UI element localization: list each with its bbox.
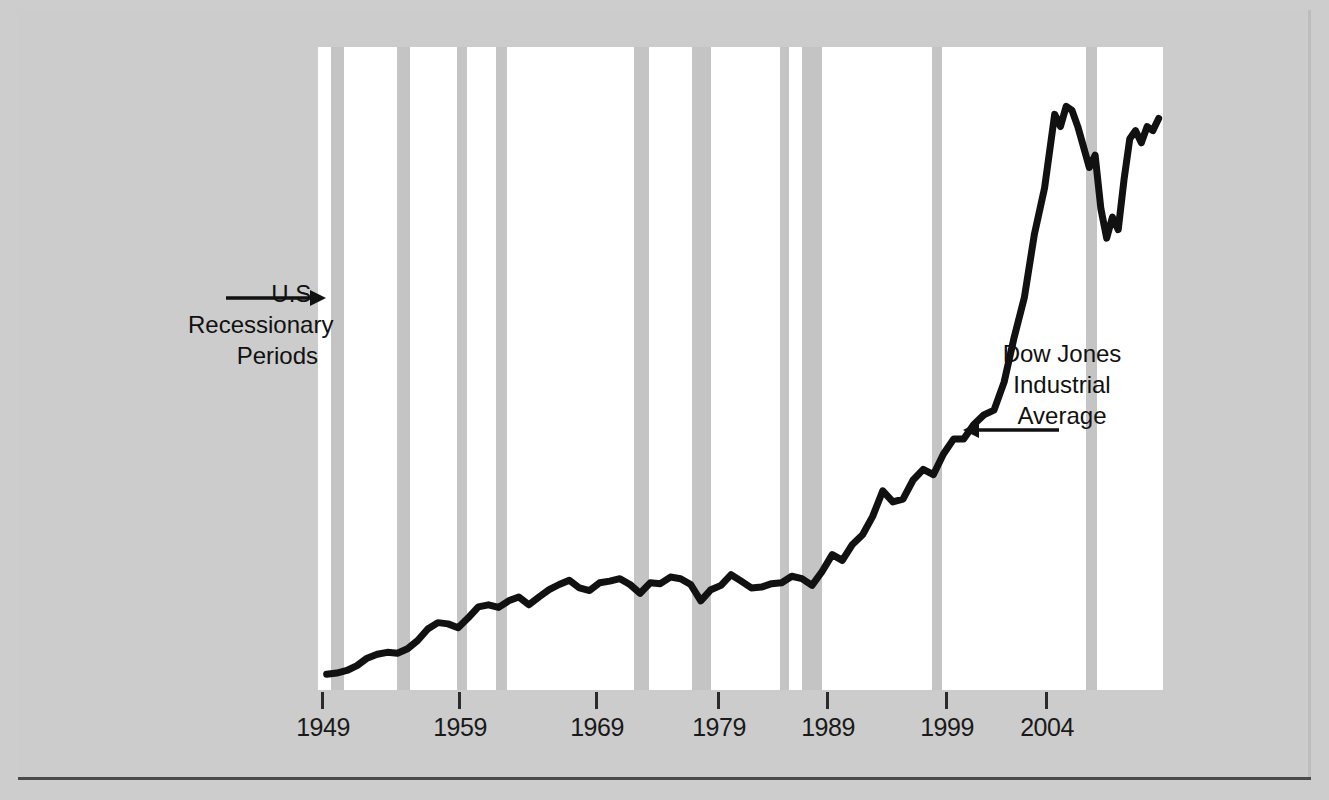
x-axis-tick xyxy=(458,692,461,709)
figure-right-edge xyxy=(1308,10,1311,780)
x-axis-tick xyxy=(945,692,948,709)
dow-annotation-line-1: Dow Jones xyxy=(982,338,1142,369)
recession-annotation-line-2: Recessionary xyxy=(188,309,318,340)
dow-annotation-line-2: Industrial xyxy=(982,369,1142,400)
x-axis-tick xyxy=(826,692,829,709)
x-axis-tick-label: 1949 xyxy=(296,713,350,742)
x-axis-tick-label: 1959 xyxy=(433,713,487,742)
x-axis-tick-label: 1989 xyxy=(801,713,855,742)
x-axis-tick-label: 1979 xyxy=(692,713,746,742)
x-axis-tick-label: 1999 xyxy=(920,713,974,742)
right-arrow-icon xyxy=(226,286,326,310)
figure-bottom-rule xyxy=(18,777,1311,780)
x-axis-tick-label: 2004 xyxy=(1020,713,1074,742)
figure-root: 1949195919691979198919992004 U.S. Recess… xyxy=(0,0,1329,800)
x-axis-tick xyxy=(595,692,598,709)
x-axis-tick-label: 1969 xyxy=(570,713,624,742)
left-arrow-icon xyxy=(963,418,1059,442)
recession-annotation-line-3: Periods xyxy=(188,340,318,371)
x-axis-tick xyxy=(321,692,324,709)
x-axis-tick xyxy=(717,692,720,709)
x-axis-tick xyxy=(1045,692,1048,709)
